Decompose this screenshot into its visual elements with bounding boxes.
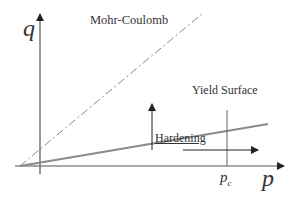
diagram-graphics: [0, 0, 293, 201]
yield-surface-label: Yield Surface: [192, 84, 258, 96]
hardening-label: Hardening: [155, 132, 206, 144]
pc-label: pc: [220, 170, 232, 188]
p-axis-label: p: [262, 166, 274, 190]
pc-label-main: p: [220, 169, 228, 185]
pc-label-sub: c: [228, 178, 232, 188]
diagram-canvas: q p Mohr-Coulomb Yield Surface Hardening…: [0, 0, 293, 201]
q-axis-label: q: [23, 16, 35, 40]
yield-surface-line: [20, 124, 268, 166]
mohr-coulomb-label: Mohr-Coulomb: [90, 14, 168, 27]
